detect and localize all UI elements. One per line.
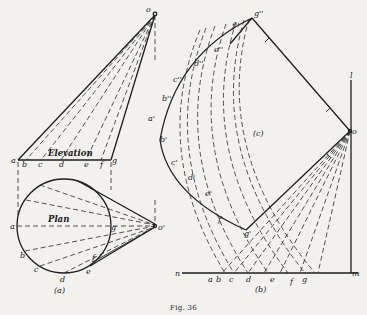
elevation-apex-label: o (146, 5, 151, 14)
elevation-label-b: b (22, 160, 27, 169)
baseline-label-e: e (270, 275, 275, 284)
baseline-label-f: f (289, 277, 295, 286)
elevation-label-g: g (112, 156, 117, 165)
label-d-double-prime: d'' (194, 59, 204, 68)
plan-label-a: a (10, 222, 15, 231)
elevation-title: Elevation (47, 148, 93, 158)
figure-caption: Fig. 36 (170, 304, 197, 312)
label-n: n (175, 269, 180, 278)
edge-g2-o (252, 18, 350, 131)
elevation-label-a: a (11, 156, 16, 165)
label-l: l (350, 71, 353, 80)
elevation-label-e: e (84, 160, 89, 169)
baseline-label-g: g (302, 275, 307, 284)
label-m: m (352, 269, 360, 278)
plan-view: o' Plan a b c d e f g (a) (10, 179, 165, 295)
label-c-double-prime: c'' (173, 75, 182, 84)
label-b-prime: b' (160, 135, 167, 144)
edge-o-g1 (246, 131, 350, 230)
baseline-label-d: d (246, 275, 251, 284)
panel-b-label: (b) (255, 285, 266, 294)
panel-a-label: (a) (54, 286, 65, 295)
plan-label-e: e (86, 267, 91, 276)
label-f-prime: f' (217, 215, 223, 224)
diagram-canvas: o Elevation a b c d e f g o' Plan a b c … (0, 0, 367, 315)
elevation-right-edge (111, 15, 155, 160)
panel-c-label: (c) (253, 129, 264, 138)
elevation-label-f: f (99, 160, 105, 169)
label-f-double-prime: f'' (231, 21, 239, 30)
plan-label-d: d (60, 275, 65, 284)
plan-label-g: g (111, 223, 116, 232)
elevation-label-d: d (59, 160, 64, 169)
baseline-label-c: c (229, 275, 234, 284)
label-c-prime: c' (171, 158, 178, 167)
development-curve (160, 18, 252, 230)
plan-title: Plan (47, 214, 69, 224)
figure-36: o Elevation a b c d e f g o' Plan a b c … (0, 0, 367, 315)
label-d-prime: d' (188, 173, 195, 182)
baseline-label-b: b (216, 275, 221, 284)
elevation-label-c: c (38, 160, 43, 169)
plan-label-c: c (34, 265, 39, 274)
plan-apex-label: o' (158, 223, 165, 232)
label-g-double-prime: g'' (254, 9, 264, 18)
label-o: o (352, 127, 357, 136)
label-e-prime: e' (205, 189, 212, 198)
label-e-double-prime: e'' (214, 45, 223, 54)
elevation-left-edge (18, 15, 155, 160)
development-view: n m l o g'' g' (c) f'' (148, 9, 360, 294)
label-b-double-prime: b'' (162, 94, 172, 103)
label-a-prime: a' (148, 114, 155, 123)
plan-label-b: b (20, 251, 25, 260)
baseline-label-a: a (208, 275, 213, 284)
